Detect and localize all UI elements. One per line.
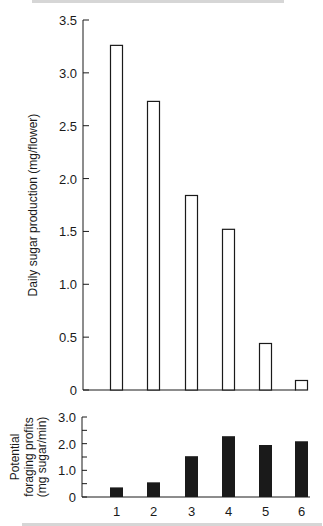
bar-sugar-production (111, 45, 123, 390)
bar-foraging-profit (259, 445, 272, 497)
y-axis-title-lower: Potential (8, 434, 22, 481)
y-tick-label-lower: 3.0 (58, 410, 76, 425)
y-tick-label: 1.0 (59, 277, 77, 292)
y-tick-label-lower: 2.0 (58, 437, 76, 452)
y-tick-label: 3.0 (59, 66, 77, 81)
y-tick-label: 1.5 (59, 224, 77, 239)
bar-foraging-profit (147, 482, 160, 497)
bar-sugar-production (223, 229, 235, 390)
bar-foraging-profit (222, 436, 235, 497)
x-tick-label: 2 (150, 504, 157, 519)
y-axis-title: Daily sugar production (mg/flower) (26, 114, 40, 297)
x-tick-label: 5 (262, 504, 269, 519)
x-tick-label: 3 (188, 504, 195, 519)
y-tick-label-lower: 0 (69, 490, 76, 505)
bar-foraging-profit (185, 456, 198, 497)
y-axis-title-lower: foraging profits (22, 417, 36, 496)
y-axis-title-lower: (mg sugar/min) (35, 417, 49, 498)
y-tick-label: 3.5 (59, 13, 77, 28)
bar-foraging-profit (295, 441, 308, 497)
bar-foraging-profit (110, 487, 123, 497)
y-tick-label: 2.5 (59, 119, 77, 134)
bar-sugar-production (296, 380, 308, 390)
y-tick-label: 2.0 (59, 172, 77, 187)
bar-sugar-production (186, 195, 198, 390)
bar-sugar-production (148, 101, 160, 390)
y-tick-label: 0.5 (59, 330, 77, 345)
x-tick-label: 6 (298, 504, 305, 519)
x-tick-label: 4 (225, 504, 232, 519)
y-tick-label-lower: 1.0 (58, 463, 76, 478)
bar-sugar-production (260, 343, 272, 390)
x-tick-label: 1 (113, 504, 120, 519)
y-tick-label: 0 (70, 383, 77, 398)
chart-figure: 00.51.01.52.02.53.03.5Daily sugar produc… (0, 0, 323, 526)
